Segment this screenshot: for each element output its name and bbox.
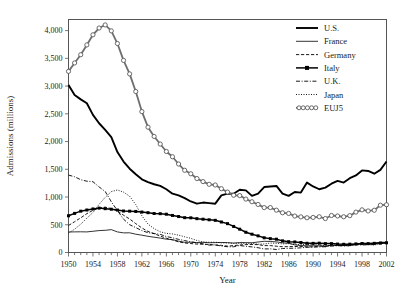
series-marker	[121, 58, 125, 62]
series-u-k	[69, 175, 387, 249]
series-marker	[317, 215, 321, 219]
chart-canvas: 05001,0001,5002,0002,5003,0003,5004,0001…	[0, 0, 410, 303]
series-marker	[208, 218, 211, 221]
series-marker	[158, 142, 162, 146]
series-marker	[214, 219, 217, 222]
legend-item-france[interactable]: France	[296, 36, 347, 46]
legend-circle-marker-icon	[305, 106, 309, 110]
legend-item-euj5[interactable]: EUJ5	[296, 103, 343, 113]
series-marker	[67, 214, 70, 217]
series-marker	[91, 207, 94, 210]
series-marker	[250, 233, 253, 236]
x-tick-label: 1994	[330, 260, 346, 269]
series-marker	[366, 209, 370, 213]
x-tick-label: 1990	[305, 260, 321, 269]
legend-circle-marker-icon	[310, 106, 314, 110]
series-marker	[324, 242, 327, 245]
series-marker	[109, 29, 113, 33]
series-marker	[195, 217, 198, 220]
series-marker	[336, 243, 339, 246]
legend-item-u-k[interactable]: U.K.	[296, 76, 341, 86]
series-marker	[147, 211, 150, 214]
series-marker	[305, 216, 309, 220]
series-marker	[280, 211, 284, 215]
series-marker	[225, 190, 229, 194]
series-marker	[268, 205, 272, 209]
series-marker	[195, 176, 199, 180]
x-tick-label: 1950	[61, 260, 77, 269]
y-tick-label: 4,000	[45, 26, 63, 35]
legend-circle-marker-icon	[301, 106, 305, 110]
x-tick-label: 1986	[281, 260, 297, 269]
series-marker	[287, 240, 290, 243]
series-marker	[262, 206, 266, 210]
x-axis-title: Year	[219, 275, 236, 285]
y-tick-label: 1,500	[45, 165, 63, 174]
series-marker	[134, 89, 138, 93]
series-marker	[115, 41, 119, 45]
y-tick-label: 2,500	[45, 110, 63, 119]
series-marker	[335, 214, 339, 218]
series-marker	[238, 228, 241, 231]
series-marker	[256, 202, 260, 206]
legend-item-u-s[interactable]: U.S.	[296, 23, 339, 33]
y-tick-label: 2,000	[45, 137, 63, 146]
series-marker	[79, 53, 83, 57]
series-italy	[67, 207, 388, 246]
series-line	[69, 175, 387, 249]
legend-item-germany[interactable]: Germany	[296, 50, 356, 60]
legend-item-italy[interactable]: Italy	[296, 63, 340, 73]
legend-label: Japan	[324, 90, 344, 100]
series-marker	[226, 222, 229, 225]
series-marker	[140, 109, 144, 113]
series-marker	[183, 216, 186, 219]
series-marker	[91, 33, 95, 37]
series-marker	[152, 134, 156, 138]
series-marker	[85, 209, 88, 212]
series-marker	[219, 187, 223, 191]
series-marker	[269, 237, 272, 240]
series-marker	[244, 197, 248, 201]
legend-label: Germany	[324, 50, 356, 60]
series-marker	[263, 236, 266, 239]
series-marker	[202, 218, 205, 221]
series-marker	[329, 213, 333, 217]
x-tick-label: 1978	[232, 260, 248, 269]
series-marker	[287, 211, 291, 215]
series-marker	[164, 149, 168, 153]
series-marker	[323, 216, 327, 220]
series-marker	[98, 207, 101, 210]
x-tick-label: 1982	[256, 260, 272, 269]
series-marker	[159, 212, 162, 215]
series-marker	[110, 208, 113, 211]
series-marker	[97, 26, 101, 30]
series-marker	[213, 183, 217, 187]
series-marker	[183, 168, 187, 172]
series-marker	[378, 203, 382, 207]
series-marker	[189, 216, 192, 219]
series-marker	[250, 200, 254, 204]
x-tick-label: 1966	[158, 260, 174, 269]
series-marker	[318, 242, 321, 245]
legend-circle-marker-icon	[314, 106, 318, 110]
series-marker	[170, 155, 174, 159]
y-tick-label: 3,000	[45, 82, 63, 91]
series-marker	[153, 212, 156, 215]
series-marker	[171, 214, 174, 217]
x-tick-label: 1974	[207, 260, 223, 269]
series-marker	[311, 215, 315, 219]
x-tick-label: 1954	[85, 260, 101, 269]
series-marker	[232, 193, 236, 197]
series-marker	[238, 193, 242, 197]
series-marker	[176, 162, 180, 166]
y-tick-label: 3,500	[45, 54, 63, 63]
series-marker	[274, 208, 278, 212]
x-tick-label: 1962	[134, 260, 150, 269]
legend-item-japan[interactable]: Japan	[296, 90, 344, 100]
legend-label: EUJ5	[324, 103, 343, 113]
x-tick-label: 2002	[379, 260, 395, 269]
series-marker	[103, 23, 107, 27]
series-marker	[73, 61, 77, 65]
series-marker	[201, 180, 205, 184]
series-marker	[354, 210, 358, 214]
